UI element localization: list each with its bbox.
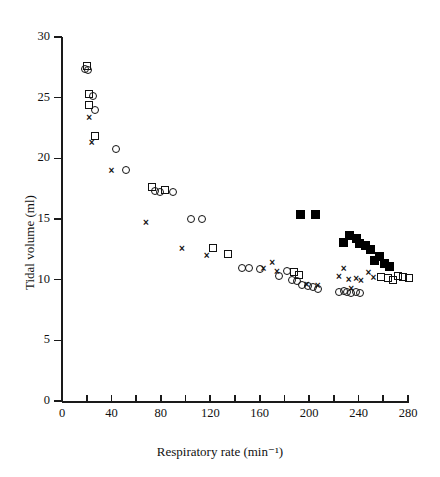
y-tick-label: 15	[14, 212, 50, 225]
y-tick-label: 25	[14, 91, 50, 104]
x-tick-label: 0	[37, 407, 87, 420]
y-tick	[54, 97, 62, 99]
data-point-cross: ×	[339, 264, 348, 273]
data-point-cross: ×	[313, 281, 322, 290]
x-tick-label: 160	[235, 407, 285, 420]
data-point-filled-square	[311, 210, 320, 219]
y-tick	[54, 36, 62, 38]
data-point-circle	[169, 188, 177, 196]
data-point-square	[83, 62, 91, 70]
data-point-cross: ×	[87, 138, 96, 147]
data-point-square	[85, 90, 93, 98]
chart-figure: ××××××××××××××××××× Respiratory rate (mi…	[0, 0, 440, 477]
data-point-square	[224, 250, 232, 258]
x-tick-label: 240	[334, 407, 384, 420]
y-tick	[54, 279, 62, 281]
y-tick-label: 0	[14, 394, 50, 407]
y-tick-label: 5	[14, 333, 50, 346]
x-tick-major	[111, 395, 113, 402]
data-point-circle	[356, 289, 364, 297]
x-tick-major	[308, 395, 310, 402]
x-tick-label: 280	[383, 407, 433, 420]
y-tick	[54, 340, 62, 342]
data-point-square	[405, 274, 413, 282]
data-point-filled-square	[296, 210, 305, 219]
data-point-filled-square	[385, 262, 394, 271]
data-point-circle	[198, 215, 206, 223]
y-tick	[54, 158, 62, 160]
x-tick-label: 40	[86, 407, 136, 420]
x-tick-minor	[382, 395, 384, 402]
data-point-cross: ×	[273, 267, 282, 276]
y-tick	[54, 400, 62, 402]
data-point-cross: ×	[347, 284, 356, 293]
data-point-circle	[112, 145, 120, 153]
x-tick-label: 200	[284, 407, 334, 420]
data-point-cross: ×	[369, 273, 378, 282]
data-point-square	[161, 186, 169, 194]
data-point-cross: ×	[142, 218, 151, 227]
x-tick-major	[358, 395, 360, 402]
x-tick-minor	[185, 395, 187, 402]
x-tick-minor	[135, 395, 137, 402]
data-point-square	[148, 183, 156, 191]
data-point-cross: ×	[302, 280, 311, 289]
x-tick-major	[160, 395, 162, 402]
data-point-cross: ×	[177, 244, 186, 253]
data-point-cross: ×	[357, 276, 366, 285]
data-point-cross: ×	[85, 113, 94, 122]
data-point-square	[295, 271, 303, 279]
data-point-cross: ×	[259, 264, 268, 273]
x-tick-minor	[234, 395, 236, 402]
x-axis-title: Respiratory rate (min⁻¹)	[0, 444, 440, 460]
y-tick	[54, 218, 62, 220]
y-tick-label: 20	[14, 151, 50, 164]
y-tick-label: 30	[14, 30, 50, 43]
data-point-cross: ×	[107, 166, 116, 175]
y-tick-label: 10	[14, 273, 50, 286]
data-point-circle	[122, 166, 130, 174]
x-tick-label: 120	[185, 407, 235, 420]
x-tick-label: 80	[136, 407, 186, 420]
data-point-cross: ×	[202, 251, 211, 260]
plot-area: ×××××××××××××××××××	[0, 0, 440, 477]
x-tick-minor	[86, 395, 88, 402]
data-point-circle	[187, 215, 195, 223]
data-point-circle	[245, 264, 253, 272]
x-tick-major	[209, 395, 211, 402]
data-point-square	[85, 101, 93, 109]
x-tick-minor	[333, 395, 335, 402]
x-tick-major	[259, 395, 261, 402]
data-point-filled-square	[366, 245, 375, 254]
x-tick-major	[407, 395, 409, 402]
x-tick-minor	[284, 395, 286, 402]
